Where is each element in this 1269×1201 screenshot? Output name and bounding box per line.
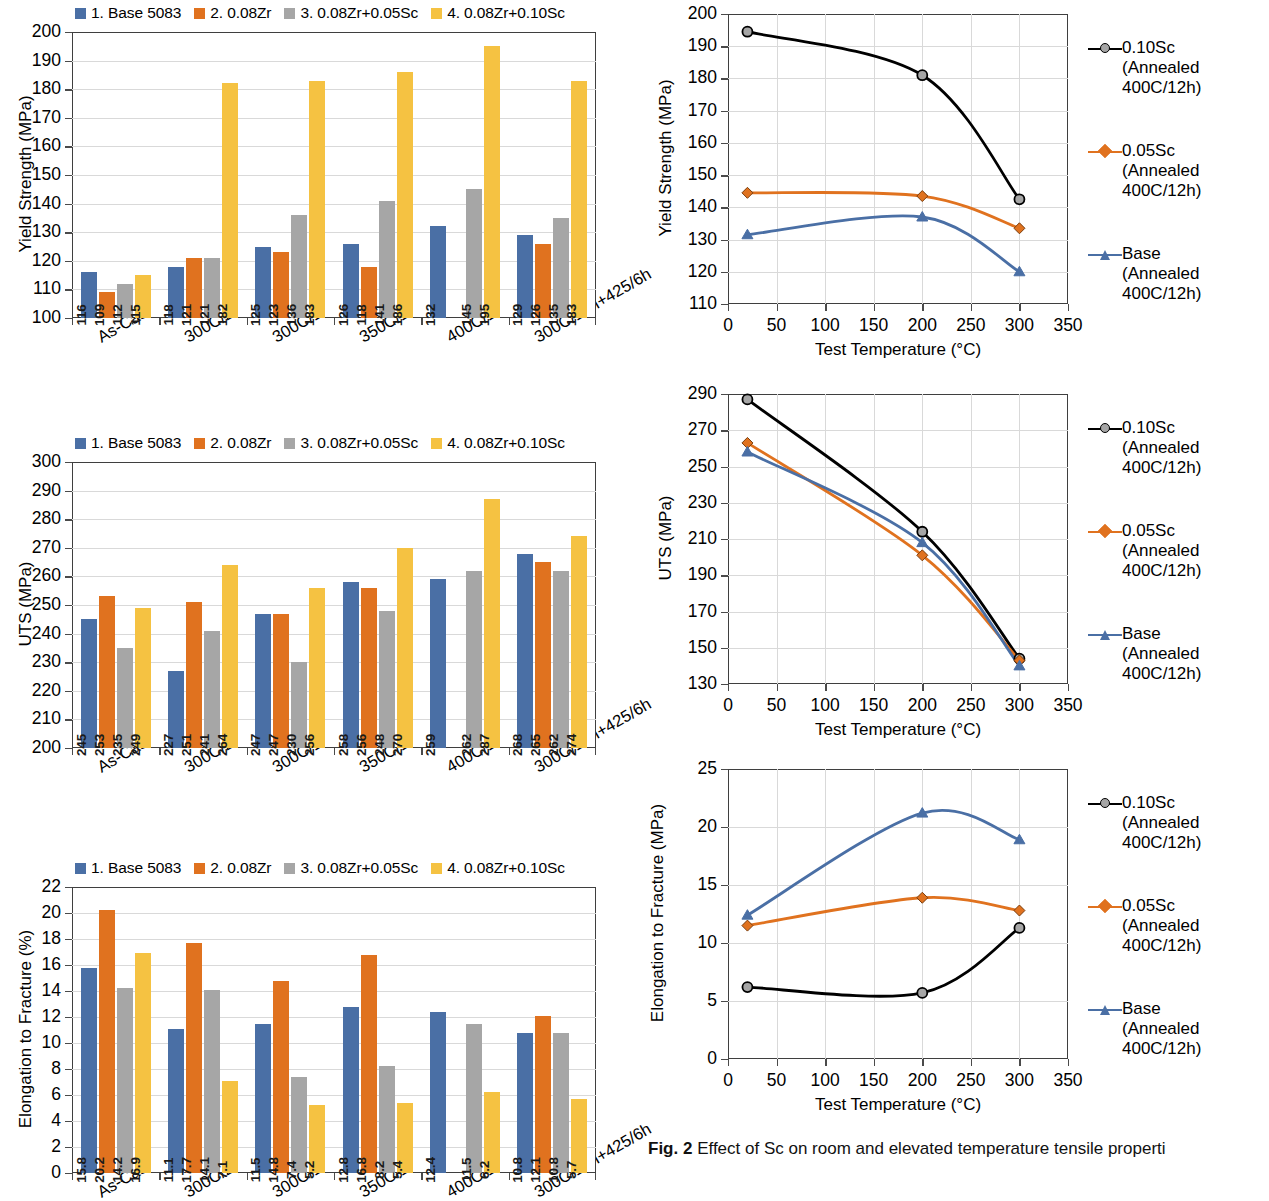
bar: 195 bbox=[484, 46, 500, 318]
legend-swatch-1 bbox=[75, 863, 86, 874]
bar: 14.2 bbox=[117, 988, 133, 1173]
bar-value-label: 16.9 bbox=[128, 1157, 143, 1182]
x-tick-label: 0 bbox=[723, 1070, 733, 1091]
x-tick-mark bbox=[971, 684, 972, 691]
marker-circle bbox=[1100, 43, 1110, 53]
x-tick-mark bbox=[874, 304, 875, 311]
bar: 12.1 bbox=[535, 1016, 551, 1173]
bar-value-label: 10.8 bbox=[510, 1157, 525, 1182]
legend-label-line2: (Annealed bbox=[1122, 916, 1201, 936]
y-tick-label: 150 bbox=[0, 166, 61, 184]
y-tick-label: 270 bbox=[0, 539, 61, 557]
legend-item-1: 0.10Sc(Annealed400C/12h) bbox=[1088, 793, 1201, 853]
bar: 16.8 bbox=[361, 955, 377, 1173]
x-tick-label: 300 bbox=[1005, 695, 1034, 716]
y-tick-mark bbox=[721, 394, 728, 395]
legend-label-3: 3. 0.08Zr+0.05Sc bbox=[300, 434, 418, 452]
legend-label-3: Base(Annealed400C/12h) bbox=[1122, 999, 1201, 1059]
legend-label-line1: 0.10Sc bbox=[1122, 38, 1201, 58]
x-tick-label: 150 bbox=[859, 695, 888, 716]
y-tick-mark bbox=[65, 519, 72, 520]
legend-item-1: 1. Base 5083 bbox=[75, 859, 181, 877]
grid-line bbox=[72, 232, 596, 233]
y-tick-mark bbox=[65, 146, 72, 147]
y-tick-label: 170 bbox=[0, 109, 61, 127]
data-point bbox=[917, 191, 928, 202]
series-line-3 bbox=[747, 810, 1019, 915]
legend-label-line3: 400C/12h) bbox=[1122, 833, 1201, 853]
y-tick-label: 190 bbox=[640, 37, 717, 55]
series-lines bbox=[728, 14, 1068, 304]
left-column-bar-charts: 1. Base 50832. 0.08Zr3. 0.08Zr+0.05Sc4. … bbox=[0, 0, 640, 1158]
bar: 12.8 bbox=[343, 1007, 359, 1173]
legend-marker-3 bbox=[1088, 624, 1122, 644]
legend-item-3: Base(Annealed400C/12h) bbox=[1088, 999, 1201, 1059]
plot-area: 2452532352492272512412642472472302562582… bbox=[72, 462, 596, 748]
bar-value-label: 7.1 bbox=[215, 1161, 230, 1179]
legend-label-line3: 400C/12h) bbox=[1122, 284, 1201, 304]
y-tick-mark bbox=[721, 539, 728, 540]
x-tick-label: 100 bbox=[811, 315, 840, 336]
data-point bbox=[1014, 194, 1024, 204]
x-tick-label: 350 bbox=[1053, 695, 1082, 716]
legend-item-2: 2. 0.08Zr bbox=[194, 434, 271, 452]
bar-value-label: 135 bbox=[546, 304, 561, 326]
x-axis-title: Test Temperature (°C) bbox=[728, 720, 1068, 740]
y-tick-label: 280 bbox=[0, 510, 61, 528]
x-tick-label: 350 bbox=[1053, 315, 1082, 336]
data-point bbox=[1014, 923, 1024, 933]
x-tick-mark bbox=[1019, 684, 1020, 691]
bar: 262 bbox=[466, 571, 482, 748]
bar-value-label: 241 bbox=[197, 734, 212, 756]
x-tick-mark bbox=[874, 1059, 875, 1066]
legend-label-2: 0.05Sc(Annealed400C/12h) bbox=[1122, 141, 1201, 201]
x-tick-mark bbox=[922, 1059, 923, 1066]
bar-value-label: 17.7 bbox=[179, 1157, 194, 1182]
x-tick-mark bbox=[595, 748, 596, 755]
bar-value-label: 12.4 bbox=[423, 1157, 438, 1182]
y-tick-mark bbox=[65, 318, 72, 319]
bar-value-label: 20.2 bbox=[92, 1157, 107, 1182]
bar: 247 bbox=[255, 614, 271, 748]
x-tick-label: 150 bbox=[859, 1070, 888, 1091]
bar-value-label: 16.8 bbox=[354, 1157, 369, 1182]
legend-item-1: 0.10Sc(Annealed400C/12h) bbox=[1088, 418, 1201, 478]
y-tick-label: 140 bbox=[640, 199, 717, 217]
x-tick-label: 50 bbox=[767, 1070, 786, 1091]
x-tick-label: 50 bbox=[767, 695, 786, 716]
legend-item-3: 3. 0.08Zr+0.05Sc bbox=[284, 4, 418, 22]
bar-value-label: 268 bbox=[510, 734, 525, 756]
x-tick-mark bbox=[874, 684, 875, 691]
bar-value-label: 118 bbox=[161, 304, 176, 325]
y-tick-mark bbox=[721, 14, 728, 15]
x-tick-label: 50 bbox=[767, 315, 786, 336]
bar: 10.8 bbox=[517, 1033, 533, 1173]
chart-line-uts: UTS (MPa)1301501701902102302502702900501… bbox=[640, 380, 1269, 755]
y-tick-label: 200 bbox=[640, 5, 717, 23]
y-tick-mark bbox=[65, 1069, 72, 1070]
bar-value-label: 126 bbox=[336, 304, 351, 326]
legend-item-4: 4. 0.08Zr+0.10Sc bbox=[431, 4, 565, 22]
data-point bbox=[1014, 223, 1025, 234]
bar: 5.7 bbox=[571, 1099, 587, 1173]
y-tick-label: 20 bbox=[640, 818, 717, 836]
bar: 6.2 bbox=[484, 1092, 500, 1173]
legend-marker-3 bbox=[1088, 244, 1122, 264]
y-tick-label: 140 bbox=[0, 195, 61, 213]
series-line-2 bbox=[747, 443, 1019, 661]
grid-line bbox=[72, 89, 596, 90]
legend-item-4: 4. 0.08Zr+0.10Sc bbox=[431, 859, 565, 877]
y-tick-label: 200 bbox=[0, 23, 61, 41]
y-tick-label: 12 bbox=[0, 1008, 61, 1026]
legend-item-3: Base(Annealed400C/12h) bbox=[1088, 244, 1201, 304]
y-tick-label: 10 bbox=[0, 1034, 61, 1052]
y-tick-label: 190 bbox=[0, 52, 61, 70]
bar-value-label: 7.4 bbox=[284, 1161, 299, 1179]
legend-label-line1: Base bbox=[1122, 624, 1201, 644]
legend-label-line1: 0.05Sc bbox=[1122, 521, 1201, 541]
grid-line bbox=[72, 146, 596, 147]
y-tick-mark bbox=[65, 89, 72, 90]
y-tick-label: 130 bbox=[640, 675, 717, 693]
legend-marker-3 bbox=[1088, 999, 1122, 1019]
y-tick-mark bbox=[65, 32, 72, 33]
